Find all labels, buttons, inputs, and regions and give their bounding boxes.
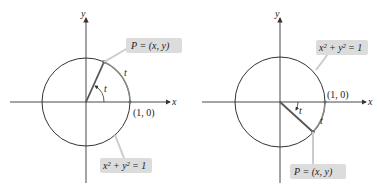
point-1-0 (129, 101, 132, 104)
point-label: P = (x, y) (293, 166, 333, 178)
right-figure: y x x² + y² = 1 P = (x, y) t t (1, 0) (202, 8, 373, 183)
leader-eq (316, 54, 328, 70)
equation-label: x² + y² = 1 (102, 160, 146, 171)
leader-p (104, 48, 128, 62)
angle-arrow (95, 86, 104, 102)
arc-label: t (124, 67, 127, 78)
leader-eq (115, 135, 124, 158)
angle-label: t (299, 105, 302, 116)
point-label: P = (x, y) (130, 40, 170, 52)
x-axis-label: x (367, 96, 373, 107)
left-figure: y x P = (x, y) t t (1, 0) x² + y² = 1 (10, 8, 182, 183)
angle-label: t (104, 83, 107, 94)
angle-arrow (296, 102, 298, 110)
unit-circle-diagrams: y x P = (x, y) t t (1, 0) x² + y² = 1 y … (0, 0, 377, 192)
y-axis-label: y (80, 8, 86, 19)
unit-point-label: (1, 0) (327, 89, 349, 101)
radius-to-p (86, 62, 104, 102)
x-axis-label: x (171, 96, 177, 107)
point-1-0 (324, 101, 327, 104)
arc-label: t (320, 115, 323, 126)
unit-point-label: (1, 0) (133, 107, 155, 119)
arc-t (313, 102, 325, 132)
equation-label: x² + y² = 1 (318, 42, 362, 53)
y-axis-label: y (274, 8, 280, 19)
radius-to-p (280, 102, 313, 132)
